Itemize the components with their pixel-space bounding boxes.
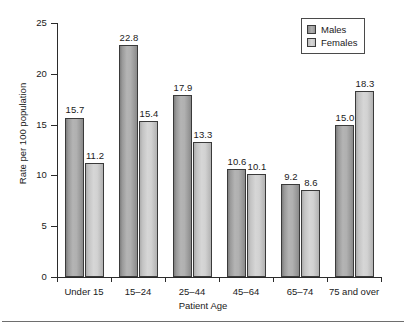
legend-swatch-males-icon — [307, 25, 316, 34]
category-label-5: 75 and over — [315, 286, 393, 297]
legend: Males Females — [301, 18, 365, 54]
y-axis-title: Rate per 100 population — [17, 69, 28, 199]
x-tick-1 — [111, 277, 112, 282]
x-tick-4 — [273, 277, 274, 282]
x-tick-5 — [327, 277, 328, 282]
bar-value-females-1: 15.4 — [137, 109, 162, 119]
bar-females-0 — [85, 163, 104, 277]
bar-value-females-2: 13.3 — [191, 130, 216, 140]
y-tick-label-0: 0 — [7, 272, 47, 282]
plot-area: 15.711.222.815.417.913.310.610.19.28.615… — [57, 23, 381, 277]
bar-females-3 — [247, 174, 266, 277]
x-tick-2 — [165, 277, 166, 282]
bar-females-5 — [355, 91, 374, 277]
legend-label-females: Females — [321, 37, 357, 48]
bar-males-3 — [227, 169, 246, 277]
bar-males-4 — [281, 184, 300, 277]
bar-value-females-4: 8.6 — [299, 178, 324, 188]
x-axis-title: Patient Age — [0, 300, 406, 311]
legend-label-males: Males — [321, 24, 346, 35]
bar-males-2 — [173, 95, 192, 277]
x-tick-3 — [219, 277, 220, 282]
x-tick-0 — [57, 277, 58, 282]
bar-females-2 — [193, 142, 212, 277]
y-tick-label-25: 25 — [7, 18, 47, 28]
bottom-divider — [2, 321, 404, 322]
bar-females-1 — [139, 121, 158, 277]
bar-males-1 — [119, 45, 138, 277]
bar-value-females-3: 10.1 — [245, 162, 270, 172]
bar-males-0 — [65, 118, 84, 278]
legend-item-females: Females — [307, 36, 357, 49]
legend-item-males: Males — [307, 23, 357, 36]
bar-chart-figure: 0510152025 15.711.222.815.417.913.310.61… — [0, 0, 406, 330]
bar-value-females-0: 11.2 — [83, 151, 108, 161]
bar-value-males-0: 15.7 — [63, 105, 88, 115]
bar-males-5 — [335, 125, 354, 277]
x-tick-6 — [381, 277, 382, 282]
bar-value-females-5: 18.3 — [353, 79, 378, 89]
bar-females-4 — [301, 190, 320, 277]
y-tick-label-5: 5 — [7, 221, 47, 231]
bar-value-males-1: 22.8 — [117, 33, 142, 43]
legend-swatch-females-icon — [307, 38, 316, 47]
bar-value-males-2: 17.9 — [171, 83, 196, 93]
